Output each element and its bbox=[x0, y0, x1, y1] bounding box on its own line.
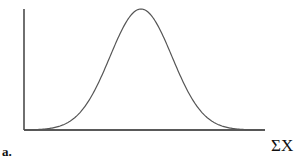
bell-curve-chart bbox=[0, 0, 300, 163]
panel-label: a. bbox=[2, 144, 12, 160]
x-axis-label: ΣX bbox=[271, 136, 293, 156]
normal-curve bbox=[24, 9, 262, 130]
